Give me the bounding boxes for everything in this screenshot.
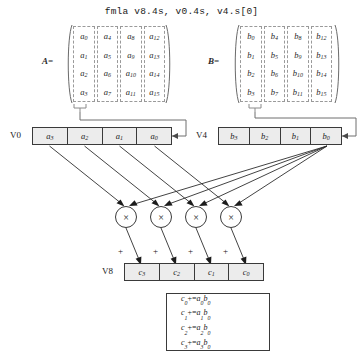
matrix-b-cell-b5: b5	[271, 47, 278, 63]
matrix-b-cell-b0: b0	[247, 28, 254, 44]
multiply-node-0: ×	[220, 206, 242, 228]
matrix-b-cell-b14: b14	[316, 65, 326, 81]
equation-c3: c3+=a3b0	[181, 337, 269, 352]
matrix-a-grid: a0a1a2a3a4a5a6a7a8a9a10a11a12a13a14a15	[72, 26, 166, 102]
matrix-a-cell-a11: a11	[126, 84, 136, 100]
matrix-b-cell-b4: b4	[271, 28, 278, 44]
multiply-node-1: ×	[185, 206, 207, 228]
register-v4-lane-b3: b3	[219, 128, 250, 144]
register-v0-label: V0	[10, 130, 21, 140]
matrix-b-cell-b9: b9	[294, 47, 301, 63]
matrix-a-cell-a8: a8	[127, 28, 134, 44]
matrix-b-column-3: b12b13b14b15	[311, 26, 333, 102]
matrix-a-cell-a3: a3	[80, 84, 87, 100]
register-v0-lane-a0: a0	[137, 128, 171, 144]
matrix-a-right-paren	[165, 24, 174, 104]
matrix-b-grid: b0b1b2b3b4b5b6b7b8b9b10b11b12b13b14b15	[239, 26, 333, 102]
register-v0-lane-a2: a2	[68, 128, 103, 144]
multiply-node-3: ×	[115, 206, 137, 228]
matrix-b-column-1: b4b5b6b7	[264, 26, 286, 102]
matrix-a-cell-a13: a13	[149, 47, 159, 63]
matrix-a-column-1: a4a5a6a7	[97, 26, 119, 102]
matrix-b-cell-b1: b1	[247, 47, 254, 63]
matrix-a-cell-a14: a14	[149, 65, 159, 81]
register-v0-lane-a1: a1	[103, 128, 138, 144]
matrix-a-cell-a15: a15	[149, 84, 159, 100]
matrix-a-cell-a2: a2	[80, 65, 87, 81]
register-v4-lane-b1: b1	[281, 128, 312, 144]
matrix-a: A= a0a1a2a3a4a5a6a7a8a9a10a11a12a13a14a1…	[44, 24, 174, 104]
matrix-a-column-2: a8a9a10a11	[120, 26, 142, 102]
register-v8-lane-c2: c2	[160, 264, 195, 280]
accumulate-sign-1: +	[188, 246, 193, 256]
equation-c0: c0+=a0b0	[181, 293, 269, 308]
matrix-b-cell-b10: b10	[293, 65, 303, 81]
matrix-b-cell-b2: b2	[247, 65, 254, 81]
matrix-b-cell-b15: b15	[316, 84, 326, 100]
equations-box: c0+=a0b0c1+=a1b0c2+=a2b0c3+=a3b0	[166, 293, 270, 351]
matrix-b-right-paren	[334, 24, 343, 104]
equation-c1: c1+=a1b0	[181, 307, 269, 322]
fmla-diagram: fmla v8.4s, v0.4s, v4.s[0] A= a0a1a2a3a4…	[0, 0, 363, 357]
register-v0-lane-a3: a3	[33, 128, 68, 144]
matrix-b-label: B=	[208, 56, 219, 66]
matrix-a-cell-a12: a12	[149, 28, 159, 44]
register-v0: a3a2a1a0	[32, 127, 172, 145]
matrix-b-cell-b7: b7	[271, 84, 278, 100]
matrix-a-cell-a0: a0	[80, 28, 87, 44]
register-v8-label: V8	[102, 266, 113, 276]
equation-c2: c2+=a2b0	[181, 322, 269, 337]
accumulate-sign-2: +	[153, 246, 158, 256]
matrix-b-cell-b8: b8	[294, 28, 301, 44]
accumulate-sign-3: +	[118, 246, 123, 256]
register-v4-label: V4	[196, 130, 207, 140]
register-v8-lane-c3: c3	[125, 264, 160, 280]
matrix-a-cell-a4: a4	[104, 28, 111, 44]
matrix-b-cell-b13: b13	[316, 47, 326, 63]
matrix-a-cell-a6: a6	[104, 65, 111, 81]
matrix-b-cell-b11: b11	[293, 84, 303, 100]
matrix-b-column-2: b8b9b10b11	[287, 26, 309, 102]
matrix-b-cell-b3: b3	[247, 84, 254, 100]
register-v4: b3b2b1b0	[218, 127, 342, 145]
register-v8-lane-c1: c1	[195, 264, 230, 280]
multiply-node-2: ×	[150, 206, 172, 228]
matrix-a-cell-a9: a9	[127, 47, 134, 63]
matrix-a-cell-a5: a5	[104, 47, 111, 63]
accumulate-sign-0: +	[223, 246, 228, 256]
matrix-b-column-0: b0b1b2b3	[240, 26, 262, 102]
matrix-b: B= b0b1b2b3b4b5b6b7b8b9b10b11b12b13b14b1…	[225, 24, 355, 104]
register-v4-lane-b2: b2	[250, 128, 281, 144]
matrix-a-label: A=	[42, 56, 53, 66]
matrix-b-cell-b6: b6	[271, 65, 278, 81]
register-v4-lane-b0: b0	[311, 128, 341, 144]
matrix-a-cell-a1: a1	[80, 47, 87, 63]
instruction-title: fmla v8.4s, v0.4s, v4.s[0]	[0, 6, 363, 17]
matrix-b-cell-b12: b12	[316, 28, 326, 44]
matrix-a-cell-a7: a7	[104, 84, 111, 100]
matrix-a-cell-a10: a10	[126, 65, 136, 81]
matrix-a-column-0: a0a1a2a3	[73, 26, 95, 102]
register-v8: c3c2c1c0	[124, 263, 264, 281]
matrix-a-column-3: a12a13a14a15	[144, 26, 166, 102]
register-v8-lane-c0: c0	[229, 264, 263, 280]
